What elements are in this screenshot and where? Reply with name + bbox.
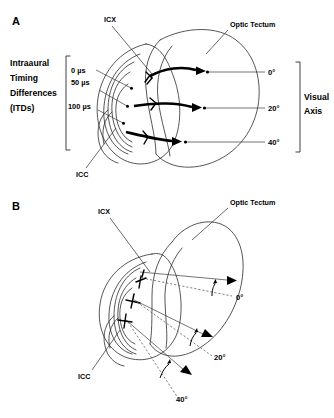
itd-tick-label-0: 0 µs [71, 66, 86, 75]
panel-a-visual-title: Visual Axis [304, 92, 329, 116]
panel-a-optic-tectum-callout: Optic Tectum [206, 20, 275, 54]
figure-svg: A [0, 0, 334, 418]
panel-a-label: A [12, 15, 20, 27]
panel-a-visual-bracket [296, 62, 300, 152]
panel-b-visual-tick-label-0: 0° [236, 293, 243, 302]
panel-a-optic-tectum-label: Optic Tectum [230, 20, 275, 29]
itd-title-line-1: Intraaural [10, 58, 49, 68]
panel-b-label: B [12, 200, 20, 212]
panel-b-icc-outline [104, 268, 140, 366]
itd-title-line-4: (ITDs) [10, 103, 34, 113]
panel-b-visual-tick-label-1: 20° [214, 353, 225, 362]
panel-a-itd-title: Intraaural Timing Differences (ITDs) [10, 58, 57, 113]
panel-b-optic-tectum-outline [150, 222, 243, 356]
panel-a-itd-tick-2: 100 µs [68, 102, 125, 125]
figure-root: A [0, 0, 334, 418]
itd-title-line-3: Differences [10, 88, 57, 98]
visual-title-line-1: Visual [304, 92, 329, 102]
itd-title-line-2: Timing [10, 73, 38, 83]
panel-b-icx-label: ICX [98, 207, 110, 216]
panel-b-icx-callout: ICX [98, 207, 150, 272]
panel-b-dashed-axes [128, 278, 232, 398]
itd-tick-label-1: 50 µs [71, 78, 90, 87]
visual-tick-label-1: 20° [268, 104, 279, 113]
visual-tick-label-2: 40° [268, 138, 279, 147]
panel-b: B [12, 198, 275, 404]
panel-a-icc-label: ICC [76, 170, 88, 179]
panel-a-icc-callout: ICC [76, 128, 116, 179]
panel-b-rotation-indicators [160, 279, 217, 378]
visual-title-line-2: Axis [304, 106, 322, 116]
itd-tick-label-2: 100 µs [68, 102, 91, 111]
visual-tick-label-0: 0° [268, 68, 275, 77]
panel-a-visual-tick-0: 0° [206, 68, 275, 77]
panel-a-visual-tick-1: 20° [203, 104, 280, 113]
panel-b-optic-tectum-label: Optic Tectum [230, 198, 275, 207]
panel-a-projections [126, 67, 206, 147]
panel-b-icx-outline [99, 254, 181, 360]
panel-a: A [10, 15, 329, 179]
panel-b-visual-tick-label-2: 40° [176, 395, 187, 404]
panel-b-icc-label: ICC [78, 372, 90, 381]
panel-a-optic-tectum-outline [146, 30, 260, 168]
panel-a-icx-label: ICX [104, 15, 116, 24]
panel-a-visual-tick-2: 40° [184, 138, 280, 147]
